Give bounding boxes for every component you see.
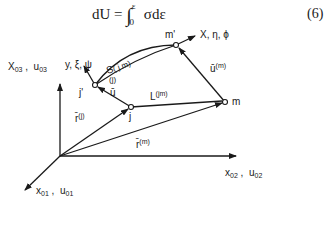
label-r-j: r̄(j) <box>75 112 85 124</box>
axis-label-x02: x02 , u02 <box>225 168 262 179</box>
node-m <box>223 100 228 105</box>
label-m: m <box>232 97 240 107</box>
label-j-prime: j' <box>79 88 83 98</box>
vector-u-m <box>179 48 225 102</box>
label-m-prime: m' <box>165 30 175 40</box>
label-j: j <box>129 112 131 122</box>
local-x-axis <box>176 36 195 45</box>
node-j-prime <box>93 83 98 88</box>
label-local-y: y, ξ, ψ <box>65 60 92 70</box>
axis-label-x01: x01 , u01 <box>36 186 73 197</box>
axis-label-x03: X03 , u03 <box>8 62 47 73</box>
label-L-jm: L(jm) <box>150 90 168 102</box>
label-u-m: ū(m) <box>210 62 226 74</box>
label-local-x: X, η, ϕ <box>200 30 229 40</box>
label-j-sup: (j) <box>109 76 116 84</box>
node-j <box>129 105 134 110</box>
label-r-m: r̄(m) <box>136 138 150 150</box>
line-L-jm <box>131 101 222 107</box>
vector-r-j <box>60 109 128 156</box>
label-u-bar: ū <box>110 88 116 98</box>
node-m-prime <box>174 43 179 48</box>
